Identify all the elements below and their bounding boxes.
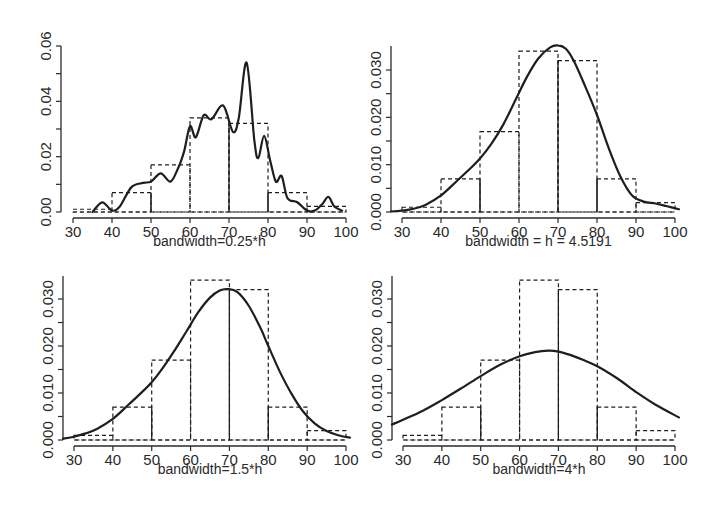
density-curve [93, 62, 343, 212]
x-axis-label: bandwidth = h = 4.5191 [465, 233, 612, 249]
x-tick-label: 100 [333, 223, 358, 240]
y-tick-label: 0.020 [368, 327, 385, 365]
histogram-bar [268, 407, 307, 440]
histogram-bar [597, 407, 636, 440]
density-figure: 0.000.020.040.0630405060708090100bandwid… [0, 0, 725, 510]
x-axis-label: bandwidth=1.5*h [158, 461, 263, 477]
y-tick-label: 0.04 [37, 87, 54, 116]
histogram-bar [519, 51, 558, 212]
x-tick-label: 80 [260, 451, 277, 468]
y-tick-label: 0.010 [368, 374, 385, 412]
x-tick-label: 30 [66, 451, 83, 468]
y-tick-label: 0.030 [367, 51, 384, 89]
panel-bandwidth-h: 0.0000.0100.0200.03030405060708090100ban… [367, 45, 688, 249]
panel-bandwidth-1.5h: 0.0000.0100.0200.03030405060708090100ban… [39, 276, 359, 477]
histogram-bar [441, 179, 480, 212]
density-curve [63, 289, 350, 439]
histogram-bar [229, 123, 268, 212]
density-curve [391, 45, 679, 211]
panel-bandwidth-4h: 0.0000.0100.0200.03030405060708090100ban… [368, 276, 688, 477]
histogram [73, 118, 346, 212]
x-tick-label: 90 [628, 451, 645, 468]
panel-bandwidth-0.25h: 0.000.020.040.0630405060708090100bandwid… [37, 31, 359, 249]
x-tick-label: 40 [434, 451, 451, 468]
histogram [403, 280, 675, 440]
histogram-bar [229, 290, 268, 440]
y-tick-label: 0.000 [367, 193, 384, 231]
histogram-bar [403, 435, 442, 440]
x-tick-label: 90 [628, 223, 645, 240]
y-tick-label: 0.00 [37, 197, 54, 226]
x-tick-label: 30 [395, 451, 412, 468]
x-tick-label: 40 [105, 451, 122, 468]
histogram-bar [152, 360, 191, 440]
x-tick-label: 90 [299, 451, 316, 468]
histogram-bar [480, 132, 519, 212]
x-tick-label: 90 [299, 223, 316, 240]
y-tick-label: 0.000 [39, 421, 56, 459]
histogram-bar [558, 290, 597, 440]
x-tick-label: 100 [662, 223, 687, 240]
y-tick-label: 0.06 [37, 31, 54, 60]
x-tick-label: 100 [662, 451, 687, 468]
histogram [402, 51, 675, 212]
histogram-bar [597, 179, 636, 212]
y-tick-label: 0.010 [39, 374, 56, 412]
x-tick-label: 100 [333, 451, 358, 468]
y-tick-label: 0.010 [367, 146, 384, 184]
x-tick-label: 40 [104, 223, 121, 240]
y-tick-label: 0.02 [37, 142, 54, 171]
histogram-bar [113, 407, 152, 440]
x-tick-label: 40 [433, 223, 450, 240]
y-tick-label: 0.030 [39, 280, 56, 318]
histogram-bar [151, 165, 190, 212]
histogram-bar [520, 280, 559, 440]
x-axis-label: bandwidth=0.25*h [153, 233, 266, 249]
x-tick-label: 80 [589, 451, 606, 468]
histogram-bar [636, 431, 675, 440]
x-tick-label: 30 [394, 223, 411, 240]
histogram-bar [190, 118, 229, 212]
x-axis-label: bandwidth=4*h [492, 461, 585, 477]
y-tick-label: 0.020 [367, 99, 384, 137]
y-tick-label: 0.000 [368, 421, 385, 459]
y-tick-label: 0.020 [39, 327, 56, 365]
y-tick-label: 0.030 [368, 280, 385, 318]
histogram-bar [442, 407, 481, 440]
x-tick-label: 50 [472, 451, 489, 468]
histogram-bar [191, 280, 230, 440]
x-tick-label: 30 [65, 223, 82, 240]
histogram-bar [558, 61, 597, 212]
